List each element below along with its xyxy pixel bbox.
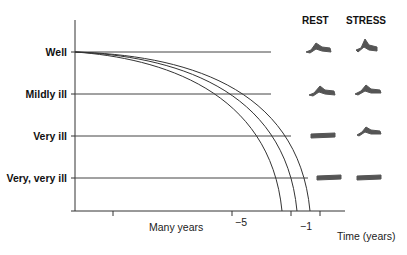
trace-stress-very-very-ill — [357, 175, 381, 180]
decline-curve-2 — [75, 52, 297, 211]
label-very-very-ill: Very, very ill — [6, 172, 67, 184]
label-many-years: Many years — [149, 221, 203, 233]
label-minus1: −1 — [300, 220, 312, 232]
trace-rest-very-ill — [311, 133, 335, 138]
header-stress: STRESS — [346, 15, 386, 26]
decline-curve-1 — [75, 52, 282, 211]
trace-rest-well — [306, 43, 331, 53]
label-well: Well — [46, 46, 67, 58]
trace-rest-mildly-ill — [309, 86, 335, 96]
trace-stress-well — [356, 39, 377, 52]
trace-stress-mildly-ill — [355, 85, 381, 95]
label-time-axis: Time (years) — [337, 230, 396, 242]
health-decline-diagram: Well Mildly ill Very ill Very, very ill … — [0, 0, 407, 255]
header-rest: REST — [302, 15, 329, 26]
label-mildly-ill: Mildly ill — [26, 88, 68, 100]
label-very-ill: Very ill — [33, 130, 67, 142]
trace-stress-very-ill — [357, 127, 381, 136]
decline-curve-3 — [75, 52, 310, 211]
trace-rest-very-very-ill — [317, 175, 341, 180]
label-minus5: −5 — [235, 216, 247, 228]
